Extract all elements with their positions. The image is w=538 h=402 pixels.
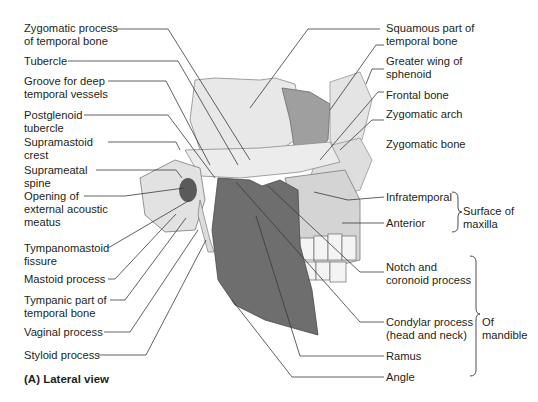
teeth-shape	[300, 234, 356, 282]
label-anterior: Anterior	[386, 217, 425, 230]
label-groove-temporal-vessels: Groove for deep temporal vessels	[24, 75, 108, 101]
label-zygomatic-process: Zygomatic process of temporal bone	[24, 22, 118, 48]
label-ramus: Ramus	[386, 350, 421, 363]
label-postglenoid-tubercle: Postglenoid tubercle	[24, 109, 82, 135]
label-tubercle: Tubercle	[24, 55, 67, 68]
label-condylar-process: Condylar process (head and neck)	[386, 316, 473, 342]
label-frontal-bone: Frontal bone	[386, 89, 449, 102]
label-supramastoid-crest: Supramastoid crest	[24, 136, 93, 162]
label-styloid-process: Styloid process	[24, 349, 100, 362]
figure-caption: (A) Lateral view	[24, 373, 109, 385]
label-tympanomastoid-fissure: Tympanomastoid fissure	[24, 242, 109, 268]
label-angle: Angle	[386, 371, 415, 384]
label-greater-wing-sphenoid: Greater wing of sphenoid	[386, 55, 462, 81]
label-suprameatal-spine: Suprameatal spine	[24, 164, 87, 190]
label-external-acoustic-meatus: Opening of external acoustic meatus	[24, 190, 108, 229]
styloid-shape	[198, 200, 214, 252]
label-mastoid-process: Mastoid process	[24, 273, 105, 286]
maxilla-brace	[452, 192, 462, 232]
label-zygomatic-arch: Zygomatic arch	[386, 108, 462, 121]
label-squamous-part: Squamous part of temporal bone	[386, 22, 474, 48]
label-notch-coronoid: Notch and coronoid process	[386, 261, 471, 287]
label-of-mandible: Of mandible	[482, 316, 527, 342]
label-vaginal-process: Vaginal process	[24, 326, 103, 339]
label-infratemporal: Infratemporal	[386, 191, 452, 204]
label-zygomatic-bone: Zygomatic bone	[386, 138, 466, 151]
label-tympanic-part: Tympanic part of temporal bone	[24, 294, 107, 320]
acoustic-meatus-shape	[179, 178, 197, 202]
label-surface-of-maxilla: Surface of maxilla	[463, 205, 514, 231]
